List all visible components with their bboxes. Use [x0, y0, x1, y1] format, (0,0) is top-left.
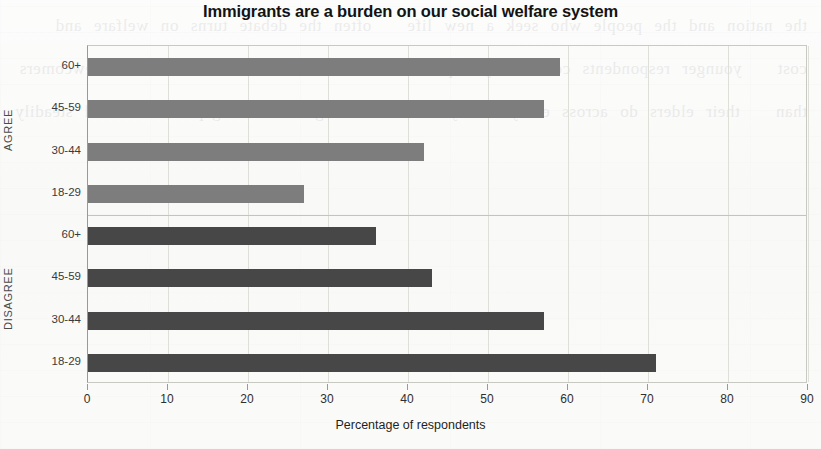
x-axis-tick-mark [567, 384, 568, 390]
bar[interactable] [88, 185, 304, 203]
x-axis-tick-mark [167, 384, 168, 390]
x-axis-tick-label: 60 [547, 392, 587, 406]
bar[interactable] [88, 143, 424, 161]
gridline [168, 46, 169, 382]
bar[interactable] [88, 354, 656, 372]
y-axis-tick-label: 60+ [29, 228, 81, 240]
y-axis-tick-label: 45-59 [29, 101, 81, 113]
y-axis-tick-label: 30-44 [29, 144, 81, 156]
plot-area [87, 45, 807, 383]
gridline [408, 46, 409, 382]
x-axis-tick-label: 0 [67, 392, 107, 406]
x-axis-tick-label: 70 [627, 392, 667, 406]
x-axis-tick-label: 80 [707, 392, 747, 406]
x-axis-tick-mark [487, 384, 488, 390]
gridline [648, 46, 649, 382]
x-axis-tick-mark [327, 384, 328, 390]
x-axis-tick-label: 40 [387, 392, 427, 406]
gridline [728, 46, 729, 382]
bar-chart: Immigrants are a burden on our social we… [0, 0, 821, 449]
y-axis-tick-label: 60+ [29, 59, 81, 71]
bar[interactable] [88, 312, 544, 330]
x-axis-tick-mark [247, 384, 248, 390]
y-axis-tick-label: 18-29 [29, 186, 81, 198]
gridline [568, 46, 569, 382]
panel-strip-label-agree: AGREE [2, 45, 16, 214]
x-axis-tick-mark [807, 384, 808, 390]
x-axis-title: Percentage of respondents [0, 418, 821, 432]
bar[interactable] [88, 269, 432, 287]
gridline [248, 46, 249, 382]
y-axis-tick-label: 18-29 [29, 355, 81, 367]
bar[interactable] [88, 227, 376, 245]
panel-divider [88, 215, 806, 216]
panel-strip-label-disagree: DISAGREE [2, 214, 16, 383]
gridline [808, 46, 809, 382]
bar[interactable] [88, 58, 560, 76]
x-axis-tick-mark [727, 384, 728, 390]
y-axis-tick-label: 30-44 [29, 313, 81, 325]
x-axis-tick-label: 90 [787, 392, 821, 406]
x-axis-tick-mark [407, 384, 408, 390]
gridline [488, 46, 489, 382]
gridline [328, 46, 329, 382]
x-axis-tick-label: 30 [307, 392, 347, 406]
x-axis-tick-mark [87, 384, 88, 390]
y-axis-tick-label: 45-59 [29, 270, 81, 282]
x-axis-tick-label: 10 [147, 392, 187, 406]
bar[interactable] [88, 100, 544, 118]
x-axis-tick-label: 50 [467, 392, 507, 406]
x-axis-tick-label: 20 [227, 392, 267, 406]
x-axis-tick-mark [647, 384, 648, 390]
chart-title: Immigrants are a burden on our social we… [0, 2, 821, 21]
